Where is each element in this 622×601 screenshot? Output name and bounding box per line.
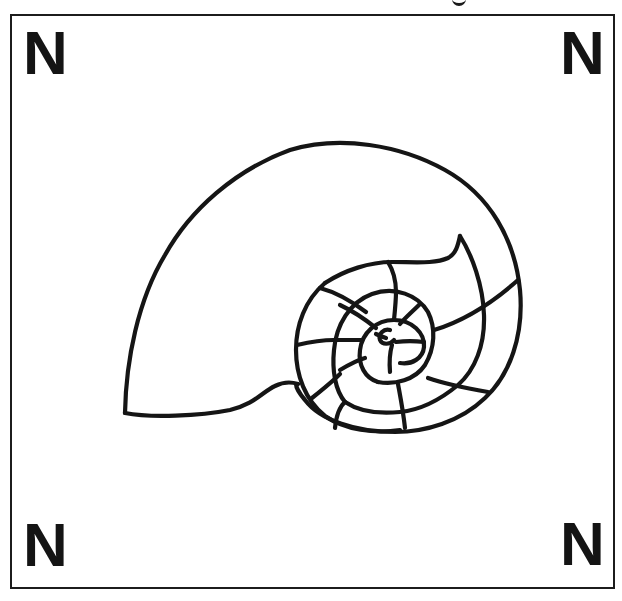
septum-6 bbox=[398, 384, 405, 428]
septum-8 bbox=[434, 280, 518, 330]
nautilus-shell-icon bbox=[0, 0, 622, 601]
septum-1 bbox=[388, 262, 396, 292]
septum-14 bbox=[396, 341, 424, 342]
shell-base-curve bbox=[125, 382, 298, 415]
septum-16 bbox=[376, 334, 386, 338]
septum-3 bbox=[297, 340, 334, 345]
septum-13 bbox=[400, 304, 420, 324]
septum-12 bbox=[394, 292, 396, 320]
septum-15 bbox=[390, 345, 392, 372]
septum-7 bbox=[428, 378, 488, 392]
